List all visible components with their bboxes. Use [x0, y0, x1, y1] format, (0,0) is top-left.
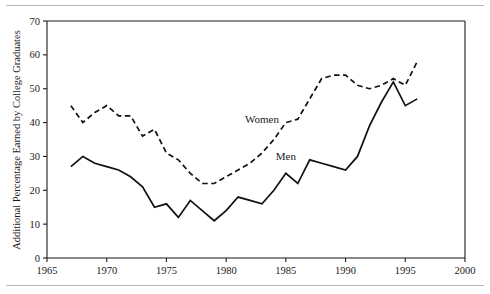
series-label-men: Men: [276, 150, 297, 162]
series-annotations: WomenMen: [245, 113, 296, 162]
x-tick-label: 1985: [275, 265, 296, 276]
y-tick-label: 50: [30, 83, 41, 94]
x-tick-label: 1995: [395, 265, 416, 276]
line-chart: Additional Percentage Earned by College …: [0, 0, 490, 294]
series-line-men: [71, 82, 417, 221]
x-tick-label: 1980: [216, 265, 237, 276]
y-tick-label: 70: [30, 16, 41, 27]
data-series-group: [71, 62, 417, 221]
y-axis-ticks: 010203040506070: [30, 16, 48, 264]
y-axis-title: Additional Percentage Earned by College …: [11, 30, 22, 250]
x-tick-label: 2000: [455, 265, 476, 276]
x-tick-label: 1990: [335, 265, 356, 276]
y-tick-label: 20: [30, 185, 41, 196]
y-tick-label: 10: [30, 219, 41, 230]
axis-lines: [47, 21, 465, 258]
y-tick-label: 30: [30, 151, 41, 162]
x-tick-label: 1965: [37, 265, 58, 276]
y-tick-label: 60: [30, 49, 41, 60]
x-tick-label: 1975: [156, 265, 177, 276]
series-label-women: Women: [245, 113, 279, 125]
y-tick-label: 0: [35, 253, 40, 264]
figure-container: Additional Percentage Earned by College …: [0, 0, 490, 294]
x-axis-ticks: 19651970197519801985199019952000: [37, 258, 476, 276]
x-tick-label: 1970: [96, 265, 117, 276]
y-tick-label: 40: [30, 117, 41, 128]
y-axis-title-text: Additional Percentage Earned by College …: [11, 30, 22, 250]
